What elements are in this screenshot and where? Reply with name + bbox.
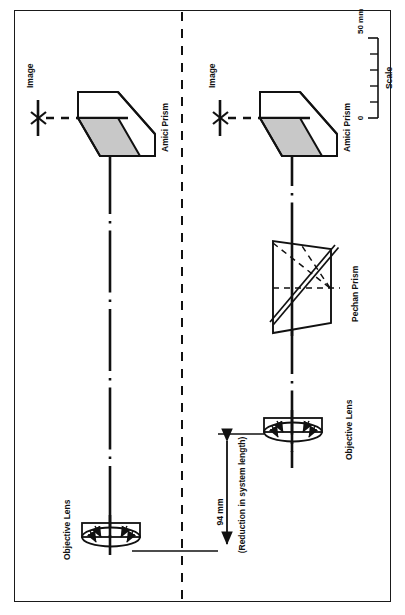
amici-prism-bottom: [260, 92, 337, 156]
pechan-prism-label: Pechan Prism: [350, 265, 360, 322]
objective-lens-label-top: Objective Lens: [62, 499, 72, 560]
amici-prism-label-bottom: Amici Prism: [342, 102, 352, 152]
image-marker-bottom: [213, 100, 228, 136]
scale-bar: 0 50 mm Scale: [356, 9, 394, 121]
scale-min-label: 0: [356, 115, 365, 120]
optical-diagram-canvas: Image Amici Prism: [0, 0, 405, 615]
pechan-prism-outline: [273, 241, 331, 333]
amici-prism-shaded-face-top: [78, 118, 140, 156]
objective-lens-bottom: [264, 410, 322, 452]
dimension-note-label: (Reduction in system length): [237, 437, 247, 554]
scale-title: Scale: [384, 67, 394, 89]
scale-max-label: 50 mm: [356, 9, 365, 34]
objective-lens-top: [82, 515, 140, 555]
dimension-value-label: 94 mm: [215, 498, 225, 525]
amici-prism-top: [78, 92, 155, 156]
system-bottom: Image Amici Prism: [207, 63, 360, 468]
image-label-bottom: Image: [207, 63, 217, 88]
system-top: Image Amici Prism: [25, 63, 218, 560]
figure-page: Image Amici Prism: [0, 0, 405, 615]
image-label-top: Image: [25, 63, 35, 88]
amici-prism-shaded-face-bottom: [260, 118, 322, 156]
system-length-reduction-dimension: 94 mm (Reduction in system length): [215, 437, 247, 554]
objective-lens-label-bottom: Objective Lens: [344, 399, 354, 460]
image-marker-top: [31, 100, 46, 136]
pechan-ray-1: [273, 243, 330, 288]
amici-prism-label-top: Amici Prism: [160, 102, 170, 152]
pechan-prism-bottom: [270, 212, 340, 336]
